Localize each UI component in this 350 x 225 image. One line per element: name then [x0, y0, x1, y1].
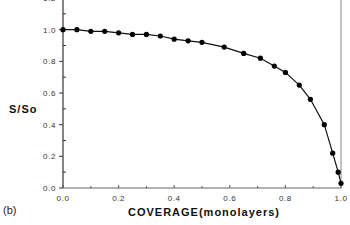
- x-tick-label: 1.0: [335, 194, 348, 203]
- y-tick-label: 0.8: [43, 57, 56, 66]
- x-tick-label: 0.2: [112, 194, 125, 203]
- y-tick-label: 0.6: [43, 89, 56, 98]
- x-tick-label: 0.8: [279, 194, 292, 203]
- data-point-marker: [308, 97, 313, 102]
- data-point-marker: [322, 122, 327, 127]
- data-point-marker: [283, 70, 288, 75]
- data-point-marker: [199, 40, 204, 45]
- data-point-marker: [297, 83, 302, 88]
- data-point-marker: [272, 64, 277, 69]
- data-point-marker: [336, 170, 341, 175]
- data-point-marker: [158, 33, 163, 38]
- x-tick-label: 0.6: [223, 194, 236, 203]
- data-point-marker: [330, 151, 335, 156]
- tick-marks: [59, 0, 341, 188]
- data-series: [60, 27, 343, 186]
- data-point-marker: [258, 56, 263, 61]
- x-tick-label: 0.4: [168, 194, 181, 203]
- series-line: [63, 30, 341, 184]
- data-point-marker: [88, 29, 93, 34]
- y-axis-title: S/So: [9, 103, 37, 115]
- data-point-marker: [222, 45, 227, 50]
- coverage-chart: 0.00.20.40.60.81.01.20.00.20.40.60.81.0 …: [0, 0, 350, 225]
- axes: [63, 0, 341, 188]
- panel-label: (b): [3, 204, 16, 216]
- y-tick-label: 1.0: [43, 26, 56, 35]
- data-point-marker: [74, 27, 79, 32]
- y-tick-label: 0.2: [43, 152, 56, 161]
- data-point-marker: [130, 32, 135, 37]
- x-tick-label: 0.0: [57, 194, 70, 203]
- data-point-marker: [102, 29, 107, 34]
- y-tick-label: 0.4: [43, 121, 56, 130]
- data-point-marker: [144, 32, 149, 37]
- data-point-marker: [338, 181, 343, 186]
- data-point-marker: [172, 37, 177, 42]
- data-point-marker: [186, 38, 191, 43]
- y-tick-label: 1.2: [43, 0, 56, 3]
- data-point-marker: [116, 30, 121, 35]
- y-tick-label: 0.0: [43, 184, 56, 193]
- data-point-marker: [60, 27, 65, 32]
- data-point-marker: [241, 51, 246, 56]
- x-axis-title: COVERAGE(monolayers): [128, 206, 280, 218]
